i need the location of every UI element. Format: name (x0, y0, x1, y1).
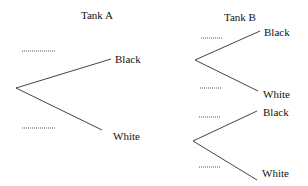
tree-lines (0, 0, 308, 186)
tank-b-upper-black-label: Black (264, 26, 290, 38)
tank-b-upper-white-label: White (263, 88, 290, 100)
tank-a-white-label: White (113, 130, 140, 142)
tank-b-lower-white-branch (193, 141, 257, 180)
tank-a-black-label: Black (115, 53, 141, 65)
tank-a-black-branch (16, 59, 111, 88)
tank-b-upper-black-branch (195, 31, 260, 60)
tank-b-lower-black-label: Black (263, 106, 289, 118)
tank-a-title: Tank A (81, 9, 113, 21)
tank-b-lower-black-branch (193, 111, 257, 141)
tank-b-upper-white-branch (195, 60, 258, 91)
tank-b-title: Tank B (224, 11, 256, 23)
tank-b-lower-white-label: White (262, 167, 289, 179)
tank-a-white-branch (16, 88, 102, 130)
